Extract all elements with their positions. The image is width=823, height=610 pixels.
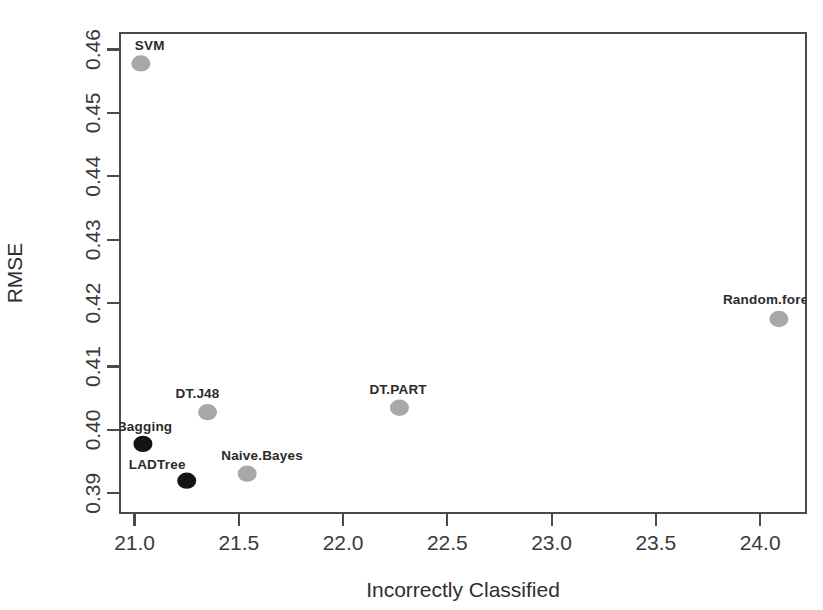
x-tick-label: 23.5 xyxy=(635,531,676,554)
x-tick-label: 22.5 xyxy=(427,531,468,554)
data-point-marker xyxy=(133,436,152,452)
data-point-label: Random.fore xyxy=(723,292,809,307)
data-point-label: Naive.Bayes xyxy=(221,448,303,463)
y-tick-label: 0.39 xyxy=(81,473,104,514)
data-point-label: Bagging xyxy=(117,419,172,434)
x-axis-title: Incorrectly Classified xyxy=(366,578,560,601)
y-tick-label: 0.40 xyxy=(81,409,104,450)
y-tick-label: 0.43 xyxy=(81,219,104,260)
x-tick-label: 23.0 xyxy=(531,531,572,554)
x-tick-label: 21.0 xyxy=(114,531,155,554)
y-tick-label: 0.42 xyxy=(81,283,104,324)
data-point-marker xyxy=(769,311,788,327)
x-tick-label: 21.5 xyxy=(218,531,259,554)
plot-canvas: 21.021.522.022.523.023.524.0 0.390.400.4… xyxy=(0,0,823,610)
y-axis-title: RMSE xyxy=(3,243,26,304)
data-point-label: DT.J48 xyxy=(176,386,220,401)
plot-background xyxy=(0,0,823,610)
data-point-label: SVM xyxy=(135,38,165,53)
scatter-plot-figure: 21.021.522.022.523.023.524.0 0.390.400.4… xyxy=(0,0,823,610)
data-point-marker xyxy=(131,55,150,71)
data-point-marker xyxy=(390,400,409,416)
y-tick-label: 0.41 xyxy=(81,346,104,387)
y-tick-label: 0.45 xyxy=(81,92,104,133)
data-point-marker xyxy=(198,404,217,420)
data-point-label: LADTree xyxy=(129,457,186,472)
data-point-label: DT.PART xyxy=(369,382,427,397)
x-tick-label: 24.0 xyxy=(740,531,781,554)
y-tick-label: 0.44 xyxy=(81,156,104,197)
data-point-marker xyxy=(177,472,196,488)
x-tick-label: 22.0 xyxy=(323,531,364,554)
data-point-marker xyxy=(238,466,257,482)
y-tick-label: 0.46 xyxy=(81,29,104,70)
